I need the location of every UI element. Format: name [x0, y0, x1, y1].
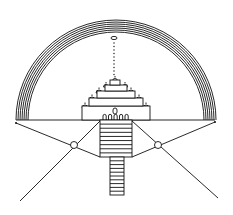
narrow-staircase: [110, 157, 124, 195]
temple-tier: [110, 80, 120, 85]
temple-tier: [97, 91, 135, 98]
stupa-rainbow-diagram: [0, 0, 233, 215]
right-sight-circle: [155, 142, 162, 149]
top-ellipse: [111, 36, 117, 39]
left-sight-circle: [71, 142, 78, 149]
wide-staircase: [100, 120, 132, 157]
temple-tier: [105, 85, 127, 91]
dotted-vertical-line: [113, 42, 114, 75]
temple-tier: [89, 98, 143, 106]
temple-structure: [82, 76, 150, 120]
central-door: [113, 108, 117, 114]
